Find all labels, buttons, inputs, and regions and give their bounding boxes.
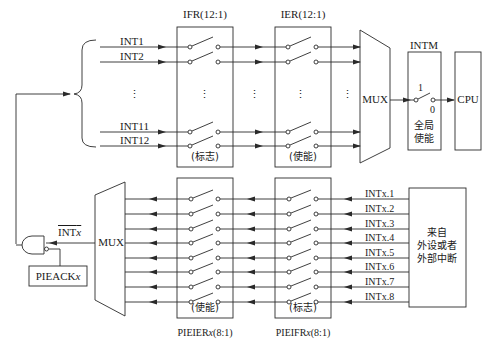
pieackx-label: PIEACKx: [36, 271, 81, 282]
intm-caption-1: 全局: [414, 120, 434, 133]
pie-interrupt-diagram: IFR(12:1) IER(12:1) INT1 INT2 INT11 INT1…: [0, 0, 488, 348]
ellipsis-5: ⋮: [342, 89, 353, 100]
intx-label-text: INTx: [58, 226, 81, 238]
bottom-mux-label: MUX: [98, 237, 124, 248]
input-intx3: INTx.3: [365, 219, 394, 229]
input-int2: INT2: [120, 51, 144, 62]
pieifr-text: PIEIFR: [276, 327, 307, 338]
input-intx6: INTx.6: [365, 262, 394, 272]
pieifr-label: PIEIFRx(8:1): [276, 328, 330, 338]
ier-caption: (使能): [289, 151, 317, 164]
input-int12: INT12: [120, 135, 149, 146]
pieier-caption: (使能): [191, 302, 219, 315]
input-int1: INT1: [120, 36, 144, 47]
input-intx8: INTx.8: [365, 292, 394, 302]
ellipsis-2: ⋮: [199, 89, 210, 100]
brace: [74, 40, 96, 147]
cpu-label: CPU: [457, 94, 478, 105]
input-intx7: INTx.7: [365, 277, 394, 287]
input-intx1: INTx.1: [365, 189, 394, 199]
input-intx5: INTx.5: [365, 248, 394, 258]
inverter-bubble: [45, 247, 49, 251]
pieier-text: PIEIER: [177, 327, 208, 338]
intm-switch-1: 1: [418, 83, 423, 93]
pieifr-caption: (标志): [289, 302, 317, 315]
ellipsis-3: ⋮: [249, 89, 260, 100]
ellipsis-4: ⋮: [295, 89, 306, 100]
ifr-caption: (标志): [191, 151, 219, 164]
bottom-mux: [95, 182, 125, 316]
pieack-suffix: x: [75, 270, 80, 282]
source-line-2: 外设或者: [417, 240, 457, 253]
input-intx4: INTx.4: [365, 233, 394, 243]
intx-text: INT: [58, 226, 76, 238]
source-line-3: 外部中断: [417, 253, 457, 266]
ifr-label: IFR(12:1): [183, 9, 227, 20]
and-gate: [22, 236, 44, 254]
pieack-text: PIEACK: [36, 270, 76, 282]
top-mux-label: MUX: [362, 94, 388, 105]
diagram-wires: [0, 0, 488, 348]
pieier-label: PIEIERx(8:1): [177, 328, 232, 338]
pieifr-range: (8:1): [311, 327, 330, 338]
intm-switch-0: 0: [430, 105, 435, 115]
ier-label: IER(12:1): [281, 9, 326, 20]
pieier-range: (8:1): [213, 327, 232, 338]
source-line-1: 来自: [427, 227, 447, 240]
input-intx2: INTx.2: [365, 204, 394, 214]
input-int11: INT11: [120, 121, 149, 132]
intm-label: INTM: [410, 40, 438, 51]
intx-suffix: x: [76, 226, 81, 238]
ellipsis-1: ⋮: [129, 89, 140, 100]
intm-caption-2: 使能: [414, 133, 434, 146]
intx-label: INTx: [58, 227, 81, 238]
